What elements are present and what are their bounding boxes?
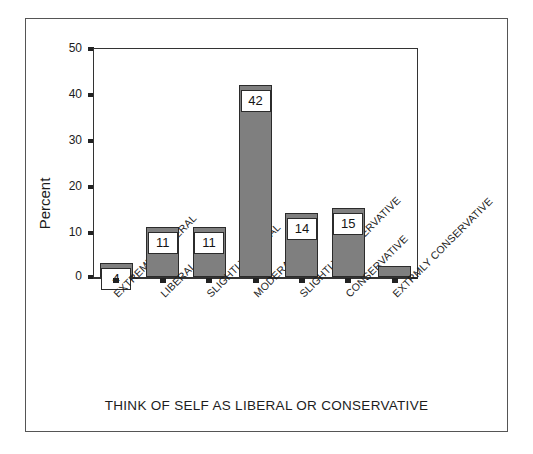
bar-value-label-5: 15 (333, 213, 363, 235)
y-tick-label-50: 50 (52, 42, 82, 54)
y-tick-label-40: 40 (52, 88, 82, 100)
x-axis-title: THINK OF SELF AS LIBERAL OR CONSERVATIVE (25, 398, 508, 413)
y-tick-label-20-wrap: 20 (50, 180, 82, 192)
chart-figure: 50 40 30 20 10 0 Percent 4EXTREMELY LIBE… (0, 0, 533, 454)
y-tick-label-30: 30 (52, 134, 82, 146)
x-tick-3 (253, 278, 259, 283)
bar-value-label-1: 11 (148, 232, 178, 254)
y-tick-label-40-wrap: 40 (50, 88, 82, 100)
y-tick-label-0-wrap: 0 (50, 270, 82, 282)
bar-value-label-2: 11 (194, 232, 224, 254)
bar-3 (239, 85, 272, 277)
bar-value-label-4: 14 (287, 218, 317, 240)
y-tick-label-20: 20 (52, 180, 82, 192)
y-tick-label-10: 10 (52, 226, 82, 238)
y-axis-label: Percent (36, 154, 53, 254)
y-tick-label-50-wrap: 50 (50, 42, 82, 54)
y-tick-label-10-wrap: 10 (50, 226, 82, 238)
y-tick-label-30-wrap: 30 (50, 134, 82, 146)
bar-value-label-3: 42 (241, 90, 271, 112)
x-tick-1 (160, 278, 166, 283)
y-tick-label-0: 0 (52, 270, 82, 282)
